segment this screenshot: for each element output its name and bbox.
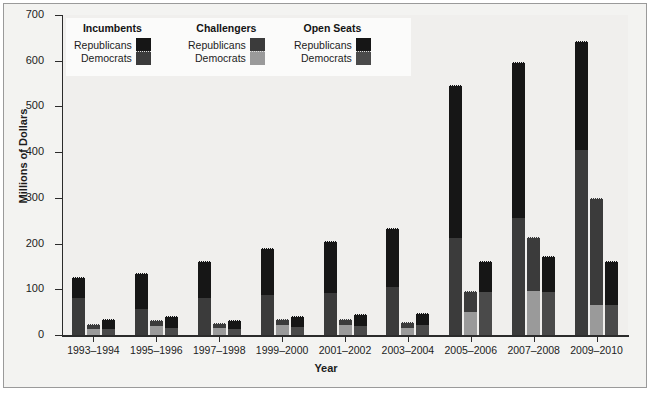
legend-swatch-democrats (250, 51, 265, 65)
bar-incumbents (261, 249, 274, 335)
bar-segment-republicans (575, 41, 588, 150)
legend-column-incumbents: IncumbentsRepublicansDemocrats (74, 22, 151, 64)
legend-swatch (356, 38, 371, 64)
bar-challengers (276, 320, 289, 335)
legend-row: Republicans (294, 38, 352, 51)
bar-segment-democrats (464, 312, 477, 335)
bar-segment-democrats (276, 325, 289, 335)
legend-column-open-seats: Open SeatsRepublicansDemocrats (294, 22, 371, 64)
x-axis-title: Year (0, 362, 652, 374)
legend-swatch-democrats (136, 51, 151, 65)
bar-segment-democrats (72, 298, 85, 335)
y-axis-line (62, 15, 63, 336)
bar-segment-democrats (165, 328, 178, 335)
bar-open-seats (354, 315, 367, 335)
bar-segment-republicans (464, 291, 477, 313)
x-axis-tick-label: 1995–1996 (130, 344, 183, 356)
y-axis-tick (55, 198, 63, 199)
legend-label-republicans: Republicans (188, 39, 246, 51)
bar-open-seats (605, 262, 618, 335)
bar-open-seats (165, 317, 178, 335)
bar-challengers (464, 292, 477, 335)
bar-segment-republicans (339, 319, 352, 325)
legend-swatch-republicans (136, 38, 151, 51)
bar-segment-democrats (339, 325, 352, 335)
bar-segment-democrats (87, 329, 100, 335)
bar-segment-democrats (354, 326, 367, 335)
x-axis-tick-label: 1997–1998 (193, 344, 246, 356)
bar-open-seats (228, 321, 241, 335)
legend-header: Incumbents (74, 22, 151, 34)
bar-segment-republicans (449, 85, 462, 237)
bar-challengers (590, 199, 603, 335)
legend-entry-pair: RepublicansDemocrats (188, 38, 265, 64)
bar-group (512, 15, 555, 335)
bar-incumbents (386, 229, 399, 335)
bar-segment-republicans (102, 319, 115, 329)
bar-segment-democrats (324, 293, 337, 336)
legend-entry-pair: RepublicansDemocrats (74, 38, 151, 64)
bar-incumbents (512, 63, 525, 335)
legend-swatch (250, 38, 265, 64)
bar-incumbents (198, 262, 211, 335)
bar-segment-democrats (527, 291, 540, 335)
bar-segment-democrats (150, 326, 163, 335)
y-axis-tick-label: 600 (0, 54, 44, 66)
y-axis-tick-label: 700 (0, 8, 44, 20)
bar-open-seats (291, 317, 304, 335)
bar-group (449, 15, 492, 335)
x-axis-tick (471, 337, 472, 342)
bar-open-seats (542, 257, 555, 335)
bar-segment-republicans (87, 324, 100, 329)
legend-label-democrats: Democrats (195, 52, 246, 64)
legend-labels: RepublicansDemocrats (294, 38, 352, 64)
x-axis-tick-label: 1999–2000 (256, 344, 309, 356)
x-axis-tick-label: 2007–2008 (507, 344, 560, 356)
bar-open-seats (479, 262, 492, 335)
legend-row: Democrats (294, 51, 352, 64)
bar-incumbents (72, 278, 85, 335)
y-axis-tick (55, 15, 63, 16)
legend-rows: RepublicansDemocrats (294, 38, 371, 64)
bar-segment-republicans (354, 314, 367, 326)
legend-swatch-republicans (356, 38, 371, 51)
bar-segment-democrats (575, 150, 588, 335)
bar-challengers (213, 324, 226, 335)
legend-labels: RepublicansDemocrats (188, 38, 246, 64)
x-axis-tick (219, 337, 220, 342)
bar-segment-democrats (449, 238, 462, 335)
y-axis-tick-label: 100 (0, 282, 44, 294)
bar-segment-democrats (386, 287, 399, 335)
y-axis-tick (55, 335, 63, 336)
bar-segment-republicans (479, 261, 492, 291)
bar-group (575, 15, 618, 335)
bar-segment-republicans (150, 320, 163, 326)
legend-header: Challengers (188, 22, 265, 34)
legend-rows: RepublicansDemocrats (188, 38, 265, 64)
y-axis-tick (55, 61, 63, 62)
bar-segment-democrats (401, 328, 414, 335)
x-axis-tick (345, 337, 346, 342)
bar-segment-republicans (291, 316, 304, 327)
legend-label-democrats: Democrats (81, 52, 132, 64)
bar-segment-republicans (324, 241, 337, 292)
bar-segment-republicans (72, 277, 85, 298)
bar-incumbents (324, 242, 337, 335)
y-axis-tick (55, 244, 63, 245)
bar-open-seats (102, 320, 115, 335)
y-axis-tick (55, 289, 63, 290)
x-axis-tick-label: 2001–2002 (319, 344, 372, 356)
bar-segment-republicans (228, 320, 241, 328)
chart-figure: 0100200300400500600700 Millions of Dolla… (0, 0, 652, 393)
x-axis-tick-label: 2005–2006 (444, 344, 497, 356)
chart-legend: IncumbentsRepublicansDemocratsChallenger… (66, 18, 411, 76)
bar-segment-democrats (512, 218, 525, 335)
y-axis-title: Millions of Dollars (17, 86, 29, 226)
bar-segment-republicans (512, 62, 525, 217)
x-axis-tick-label: 1993–1994 (67, 344, 120, 356)
bar-segment-democrats (590, 305, 603, 335)
legend-label-republicans: Republicans (74, 39, 132, 51)
legend-header: Open Seats (294, 22, 371, 34)
legend-labels: RepublicansDemocrats (74, 38, 132, 64)
bar-segment-republicans (165, 316, 178, 328)
